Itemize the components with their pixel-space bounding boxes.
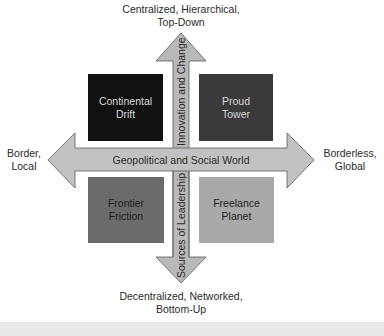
- top-end-label: Centralized, Hierarchical, Top-Down: [101, 3, 261, 29]
- right-end-label-line2: Global: [318, 160, 382, 173]
- quadrant-freelance-planet: Freelance Planet: [199, 177, 274, 243]
- bottom-end-label: Decentralized, Networked, Bottom-Up: [101, 290, 261, 316]
- right-end-label-line1: Borderless,: [318, 147, 382, 160]
- top-end-label-line2: Top-Down: [101, 16, 261, 29]
- quadrant-title-line2: Planet: [222, 210, 252, 223]
- right-end-label: Borderless, Global: [318, 147, 382, 173]
- vertical-axis-label-top: Innovation and Change: [173, 37, 189, 146]
- quadrant-title-line2: Tower: [222, 108, 250, 121]
- horizontal-axis-label: Geopolitical and Social World: [75, 152, 287, 168]
- left-end-label-line1: Border,: [2, 147, 46, 160]
- quadrant-title-line2: Friction: [109, 210, 143, 223]
- quadrant-title-line1: Proud: [222, 95, 250, 108]
- quadrant-title-line1: Freelance: [213, 197, 260, 210]
- bottom-end-label-line2: Bottom-Up: [101, 303, 261, 316]
- bottom-strip: [0, 322, 384, 336]
- quadrant-title-line2: Drift: [116, 108, 135, 121]
- top-end-label-line1: Centralized, Hierarchical,: [101, 3, 261, 16]
- quadrant-frontier-friction: Frontier Friction: [88, 177, 164, 243]
- left-end-label: Border, Local: [2, 147, 46, 173]
- vertical-axis-label-bottom: Sources of Leadership: [173, 173, 189, 278]
- left-end-label-line2: Local: [2, 160, 46, 173]
- quadrant-title-line1: Frontier: [108, 197, 144, 210]
- quadrant-title-line1: Continental: [99, 95, 152, 108]
- quadrant-proud-tower: Proud Tower: [199, 74, 273, 141]
- quadrant-continental-drift: Continental Drift: [88, 74, 163, 141]
- bottom-end-label-line1: Decentralized, Networked,: [101, 290, 261, 303]
